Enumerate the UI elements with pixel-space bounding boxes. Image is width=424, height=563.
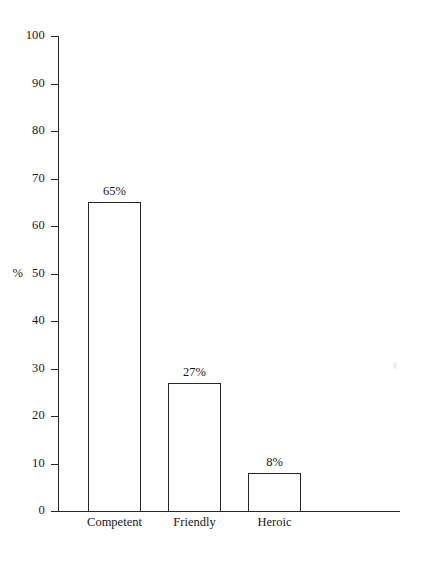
y-tick-label: 0: [0, 504, 45, 517]
y-tick-label: 40: [0, 314, 45, 327]
y-tick-mark: [51, 36, 59, 37]
bar-value-label-competent: 65%: [75, 185, 155, 198]
y-tick-mark: [51, 416, 59, 417]
bar-friendly: [168, 383, 221, 512]
bar-value-label-heroic: 8%: [235, 456, 315, 469]
bar-competent: [88, 202, 141, 512]
y-tick-label: 100: [0, 29, 45, 42]
y-tick-mark: [51, 464, 59, 465]
y-tick-label: 30: [0, 362, 45, 375]
y-tick-mark: [51, 274, 59, 275]
y-tick-mark: [51, 226, 59, 227]
bar-chart: 01020304050%60708090100 65%Competent27%F…: [0, 0, 424, 563]
y-axis-unit-label: %: [13, 267, 23, 280]
y-tick-label: 60: [0, 219, 45, 232]
y-tick-mark: [51, 179, 59, 180]
y-tick-mark: [51, 321, 59, 322]
bar-value-label-friendly: 27%: [155, 366, 235, 379]
bar-heroic: [248, 473, 301, 512]
y-tick-mark: [51, 84, 59, 85]
category-label-heroic: Heroic: [225, 516, 325, 529]
scan-artifact: [393, 362, 397, 369]
y-tick-label: 80: [0, 124, 45, 137]
y-tick-mark: [51, 511, 59, 512]
y-tick-mark: [51, 131, 59, 132]
y-tick-mark: [51, 369, 59, 370]
y-tick-label: 10: [0, 457, 45, 470]
y-tick-label: 20: [0, 409, 45, 422]
y-tick-label: 90: [0, 77, 45, 90]
y-tick-label: 70: [0, 172, 45, 185]
